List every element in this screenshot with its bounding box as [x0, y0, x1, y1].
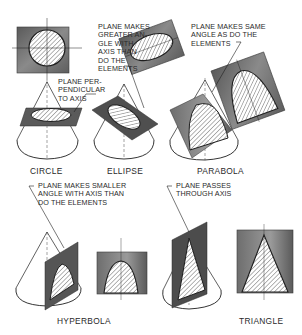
callout-perpendicular: PLANE PER- PENDICULAR TO AXIS	[58, 78, 105, 103]
hyperbola-cone	[16, 232, 81, 310]
caption-hyperbola: HYPERBOLA	[57, 316, 111, 326]
caption-triangle: TRIANGLE	[239, 316, 283, 326]
triangle-true-view	[237, 224, 293, 300]
callout-same-angle: PLANE MAKES SAME ANGLE AS DO THE ELEMENT…	[191, 23, 266, 48]
callout-greater-angle: PLANE MAKES GREATER AN- GLE WITH AXIS TH…	[98, 23, 150, 73]
triangle-cone	[163, 222, 222, 309]
circle-true-view	[12, 18, 82, 80]
callout-through-axis: PLANE PASSES THROUGH AXIS	[176, 182, 232, 199]
hyperbola-true-view	[97, 238, 147, 300]
caption-ellipse: ELLIPSE	[107, 166, 143, 176]
caption-circle: CIRCLE	[30, 166, 63, 176]
caption-parabola: PARABOLA	[197, 166, 244, 176]
callout-smaller-angle: PLANE MAKES SMALLER ANGLE WITH AXIS THAN…	[38, 182, 126, 207]
